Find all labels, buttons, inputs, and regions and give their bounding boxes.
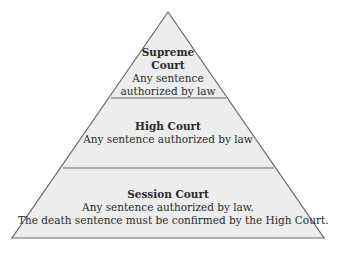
tier-title: Supreme [118,46,218,59]
tier-supreme-court: Supreme Court Any sentence authorized by… [118,46,218,98]
tier-description: Any sentence authorized by law [68,133,268,146]
tier-description: The death sentence must be confirmed by … [18,214,318,227]
tier-title: High Court [68,120,268,133]
tier-title: Session Court [18,188,318,201]
tier-high-court: High Court Any sentence authorized by la… [68,120,268,146]
tier-description: authorized by law [118,85,218,98]
tier-description: Any sentence [118,72,218,85]
tier-description: Any sentence authorized by law. [18,201,318,214]
tier-session-court: Session Court Any sentence authorized by… [18,188,318,227]
tier-title: Court [118,59,218,72]
